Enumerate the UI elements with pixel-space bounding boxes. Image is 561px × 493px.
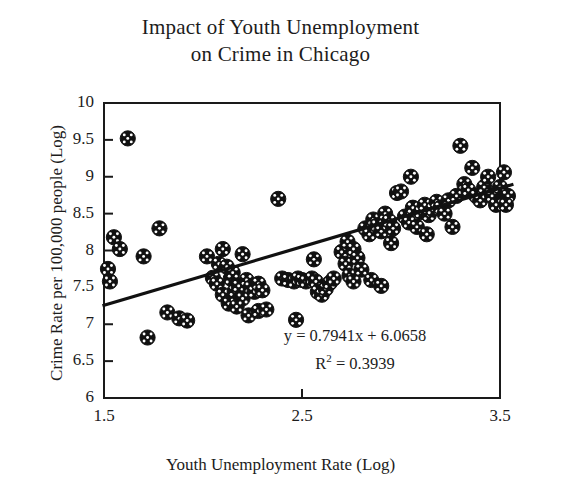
r-squared-annotation: R2 = 0.3939 <box>230 347 480 375</box>
data-point <box>419 227 434 242</box>
data-point <box>271 191 286 206</box>
data-point <box>112 241 127 256</box>
data-point <box>102 274 117 289</box>
x-tick-label: 1.5 <box>74 406 134 426</box>
data-point <box>385 221 400 236</box>
data-point <box>255 283 270 298</box>
data-point <box>374 278 389 293</box>
x-axis-title: Youth Unemployment Rate (Log) <box>0 455 561 475</box>
data-point <box>306 252 321 267</box>
data-point <box>180 313 195 328</box>
data-point-group <box>100 131 515 345</box>
data-point <box>215 241 230 256</box>
r-squared-exponent: 2 <box>326 352 332 364</box>
data-point <box>326 271 341 286</box>
data-point <box>384 236 399 251</box>
data-point <box>393 184 408 199</box>
data-point <box>259 302 274 317</box>
data-point <box>445 219 460 234</box>
data-point <box>403 169 418 184</box>
data-point <box>136 249 151 264</box>
data-point <box>152 221 167 236</box>
x-tick-label: 3.5 <box>470 406 530 426</box>
y-axis-title: Crime Rate per 100,000 people (Log) <box>47 103 67 403</box>
data-point <box>465 160 480 175</box>
data-point <box>481 169 496 184</box>
chart-figure: Impact of Youth Unemployment on Crime in… <box>0 0 561 493</box>
data-point <box>498 197 513 212</box>
data-point <box>120 131 135 146</box>
data-point <box>140 330 155 345</box>
data-point <box>235 247 250 262</box>
data-point <box>453 138 468 153</box>
x-tick-label: 2.5 <box>272 406 332 426</box>
r-squared-symbol: R <box>315 354 326 373</box>
data-point <box>496 165 511 180</box>
trendline-equation: y = 0.7941x + 6.0658 <box>230 325 480 347</box>
r-squared-value: = 0.3939 <box>336 354 395 373</box>
